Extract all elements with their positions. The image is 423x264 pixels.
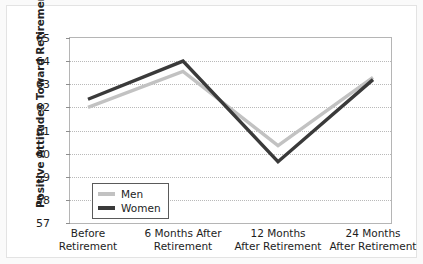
x-axis-tick-label-line: 12 Months (226, 227, 330, 240)
x-axis-tick-label-line: After Retirement (226, 240, 330, 253)
chart-legend: MenWomen (92, 183, 169, 219)
x-axis-tick-label: BeforeRetirement (36, 227, 140, 253)
y-axis-tick-label: 63 (10, 78, 50, 91)
series-line-women (88, 61, 373, 162)
legend-swatch-icon (98, 206, 115, 210)
y-axis-tick-label: 62 (10, 101, 50, 114)
x-axis-tick-label: 6 Months AfterRetirement (131, 227, 235, 253)
legend-item: Men (98, 187, 161, 201)
x-axis-tick-label-line: Retirement (131, 240, 235, 253)
y-axis-tick-label: 58 (10, 193, 50, 206)
figure-container: Positive Attitudes Toward Retirement 575… (0, 0, 423, 264)
x-axis-tick-label-line: After Retirement (321, 240, 423, 253)
legend-swatch-icon (98, 192, 115, 196)
x-axis-tick-label: 12 MonthsAfter Retirement (226, 227, 330, 253)
x-axis-tick-label-line: Retirement (36, 240, 140, 253)
legend-label: Men (121, 188, 143, 200)
y-axis-tick-label: 65 (10, 32, 50, 45)
y-axis-tick-label: 59 (10, 170, 50, 183)
legend-item: Women (98, 201, 161, 215)
x-axis-tick-label: 24 MonthsAfter Retirement (321, 227, 423, 253)
y-axis-tick-label: 64 (10, 55, 50, 68)
y-axis-tick-label: 61 (10, 124, 50, 137)
y-axis-tick-mark (66, 223, 70, 224)
plot-area: MenWomen (69, 37, 392, 224)
chart-card: Positive Attitudes Toward Retirement 575… (6, 5, 417, 258)
y-axis-tick-label: 60 (10, 147, 50, 160)
legend-label: Women (121, 202, 161, 214)
x-axis-tick-label-line: 24 Months (321, 227, 423, 240)
x-axis-tick-label-line: Before (36, 227, 140, 240)
x-axis-tick-label-line: 6 Months After (131, 227, 235, 240)
